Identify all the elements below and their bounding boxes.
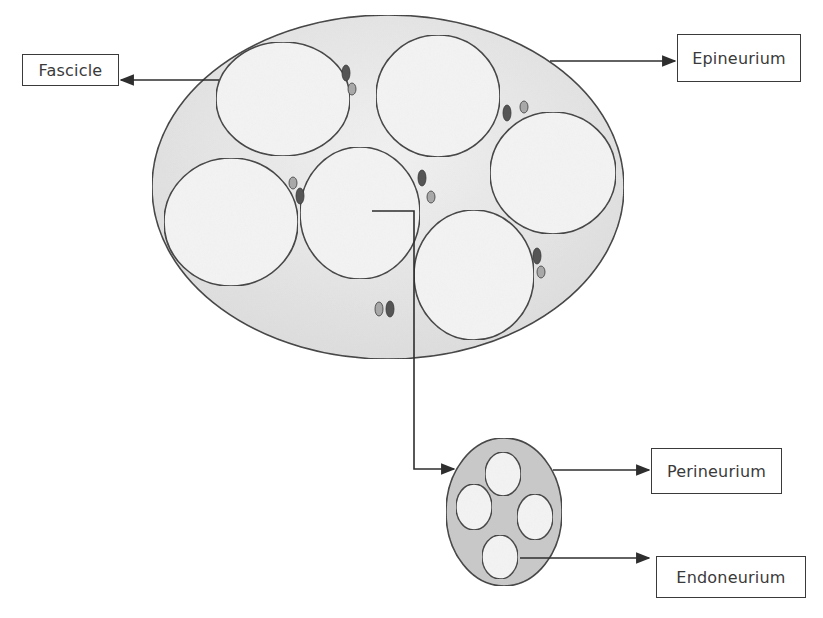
endoneurium-axon-circle [482, 535, 518, 579]
perineurium-label: Perineurium [651, 448, 782, 494]
vein-vessel [503, 105, 511, 121]
artery-vessel [520, 101, 528, 113]
vein-vessel [533, 248, 541, 264]
endoneurium-label: Endoneurium [656, 556, 806, 598]
artery-vessel [537, 266, 545, 278]
endoneurium-axon-circle [517, 494, 553, 540]
fascicle-cross-section-inset [446, 438, 562, 586]
fascicle-circle [300, 147, 420, 279]
artery-vessel [375, 302, 383, 316]
epineurium-label: Epineurium [677, 34, 801, 82]
vein-vessel [386, 301, 394, 317]
nerve-diagram [0, 0, 823, 618]
endoneurium-axon-circle [456, 484, 492, 530]
endoneurium-axon-circle [485, 452, 521, 496]
artery-vessel [289, 177, 297, 189]
fascicle-circle [414, 210, 534, 340]
fascicle-circle [376, 35, 500, 157]
vein-vessel [342, 65, 350, 81]
vein-vessel [418, 170, 426, 186]
fascicle-circle [216, 42, 350, 156]
fascicle-circle [490, 112, 616, 234]
artery-vessel [427, 191, 435, 203]
fascicle-label: Fascicle [22, 54, 119, 86]
vein-vessel [296, 188, 304, 204]
fascicle-circle [164, 158, 298, 286]
artery-vessel [348, 83, 356, 95]
